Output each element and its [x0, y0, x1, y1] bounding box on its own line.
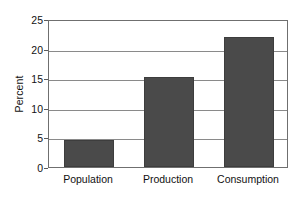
y-axis-tick-label: 25	[22, 15, 43, 25]
y-axis-tick-label: 15	[22, 74, 43, 84]
y-axis-tick-mark	[44, 20, 48, 21]
y-axis-tick-label: 5	[22, 133, 43, 143]
y-axis-tick-label: 0	[22, 163, 43, 173]
bar-chart: Percent 0510152025 PopulationProductionC…	[0, 0, 308, 197]
y-axis-tick-mark	[44, 109, 48, 110]
y-axis-tick-mark	[44, 168, 48, 169]
x-axis-tick-labels: PopulationProductionConsumption	[48, 172, 288, 188]
y-axis-tick-label: 20	[22, 45, 43, 55]
y-axis-tick-label: 10	[22, 104, 43, 114]
x-axis-tick-label: Population	[48, 172, 128, 186]
y-axis-tick-mark	[44, 138, 48, 139]
y-axis-tick-mark	[44, 79, 48, 80]
x-axis-tick-label: Consumption	[208, 172, 288, 186]
y-axis-tick-mark	[44, 50, 48, 51]
y-axis-tick-labels: 0510152025	[22, 0, 43, 197]
x-axis-tick-label: Production	[128, 172, 208, 186]
y-axis-tick-marks	[48, 20, 288, 168]
